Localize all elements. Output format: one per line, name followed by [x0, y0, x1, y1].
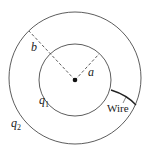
label-q1-subscript: 1	[45, 100, 49, 109]
radius-b-line	[29, 31, 75, 80]
label-q1: q1	[39, 94, 49, 109]
label-q2: q2	[11, 117, 21, 132]
radius-a-line	[75, 54, 99, 80]
label-a: a	[88, 66, 94, 78]
diagram-graphic	[0, 0, 147, 155]
label-wire: Wire	[107, 103, 129, 114]
label-q2-subscript: 2	[17, 123, 21, 132]
center-point	[73, 78, 78, 83]
concentric-spheres-diagram: b a q1 q2 Wire	[0, 0, 147, 155]
label-b: b	[31, 41, 37, 53]
